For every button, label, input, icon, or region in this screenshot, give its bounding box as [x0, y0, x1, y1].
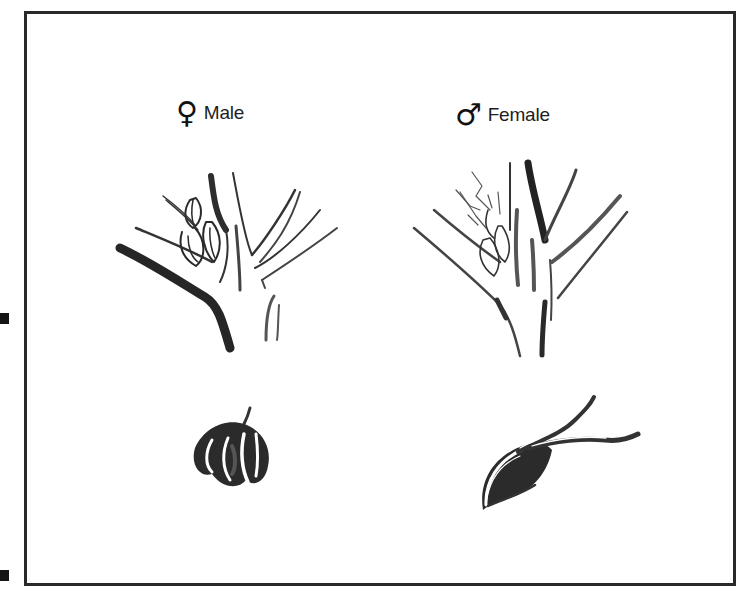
- male-flower-cluster-on-branch: [120, 173, 337, 348]
- female-single-flower: [482, 397, 638, 510]
- illustration-canvas: [0, 0, 745, 601]
- male-single-flower: [194, 408, 269, 486]
- female-flower-cluster-on-branch: [414, 163, 627, 356]
